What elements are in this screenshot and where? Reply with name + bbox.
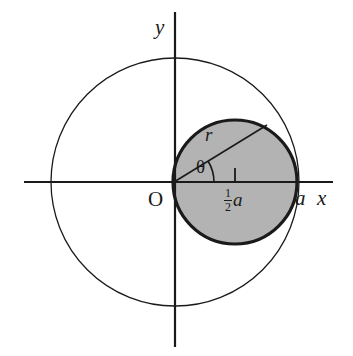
- fraction-numerator: 1: [224, 187, 232, 200]
- half-a-label: 1 2 a: [224, 186, 243, 212]
- angle-theta-label: θ: [196, 157, 205, 176]
- fraction-denominator: 2: [224, 200, 232, 214]
- y-axis-label: y: [155, 17, 164, 38]
- polar-circle-figure: y x O a r θ 1 2 a: [0, 0, 353, 356]
- radius-r-label: r: [205, 125, 212, 144]
- half-a-variable: a: [233, 190, 243, 209]
- origin-label: O: [148, 189, 163, 210]
- x-intercept-a-label: a: [295, 188, 306, 209]
- one-half-fraction: 1 2: [224, 187, 232, 213]
- figure-canvas: [0, 0, 353, 356]
- x-axis-label: x: [317, 188, 326, 209]
